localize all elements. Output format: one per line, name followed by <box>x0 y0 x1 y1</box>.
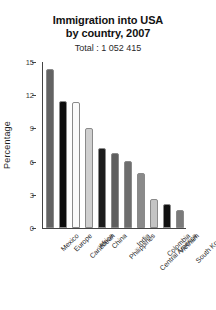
bar <box>46 69 54 228</box>
y-tick-label: 9 <box>30 124 34 133</box>
y-tick: 9 <box>38 128 42 129</box>
y-tick: 6 <box>38 162 42 163</box>
y-tick-label: 15 <box>26 58 34 67</box>
bar <box>59 101 67 228</box>
bar <box>72 102 80 228</box>
bar <box>124 161 132 229</box>
y-tick: 12 <box>38 95 42 96</box>
chart-subtitle-total: Total : 1 052 415 <box>0 42 216 54</box>
bar <box>137 173 145 228</box>
y-tick: 3 <box>38 195 42 196</box>
chart-title-line-1: Immigration into USA <box>0 14 216 27</box>
bar <box>176 210 184 228</box>
x-axis-line <box>42 228 186 229</box>
y-tick-label: 6 <box>30 157 34 166</box>
bar <box>111 153 119 228</box>
y-tick: 15 <box>38 62 42 63</box>
chart-title-line-2: by country, 2007 <box>0 27 216 40</box>
plot-area: 03691215 MexicoEuropeCaribbeanAfricaChin… <box>44 62 186 228</box>
y-axis-label: Percentage <box>2 62 16 228</box>
y-axis-line <box>42 62 43 229</box>
y-tick-label: 3 <box>30 190 34 199</box>
y-tick-label: 12 <box>26 91 34 100</box>
bar <box>85 128 93 228</box>
y-tick-label: 0 <box>30 224 34 233</box>
bar <box>150 199 158 228</box>
bar <box>98 148 106 228</box>
y-tick: 0 <box>38 228 42 229</box>
chart-figure: Immigration into USA by country, 2007 To… <box>0 0 216 310</box>
bar <box>163 204 171 228</box>
chart-title-block: Immigration into USA by country, 2007 To… <box>0 14 216 54</box>
